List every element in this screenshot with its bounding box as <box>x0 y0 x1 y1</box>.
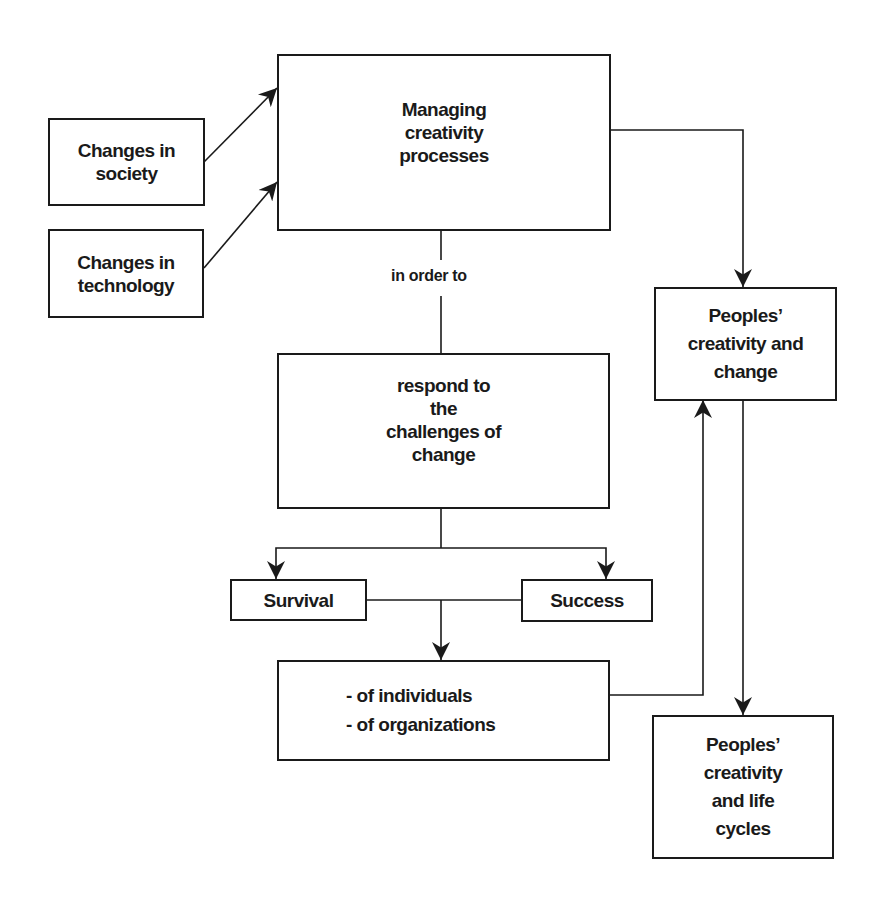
box-peoples-creativity-and-change: Peoples’ creativity and change <box>654 287 837 401</box>
connector-label-in-order-to: in order to <box>387 267 471 285</box>
box-of-individuals-organizations: - of individuals - of organizations <box>277 660 610 761</box>
arrow-to-survival <box>276 548 441 579</box>
box-respond-to-challenges: respond to the challenges of change <box>277 353 610 509</box>
box-label: Peoples’ creativity and change <box>688 302 804 386</box>
box-label: - of individuals - of organizations <box>346 681 495 739</box>
box-label: Peoples’ creativity and life cycles <box>704 731 782 843</box>
box-peoples-creativity-and-life-cycles: Peoples’ creativity and life cycles <box>652 715 834 859</box>
arrow-managing-to-peoples-change <box>610 130 743 287</box>
arrow-technology-to-managing <box>204 182 277 268</box>
box-success: Success <box>521 579 653 622</box>
box-survival: Survival <box>230 579 367 621</box>
box-changes-in-technology: Changes in technology <box>48 229 204 318</box>
box-label: respond to the challenges of change <box>386 374 501 466</box>
box-label: Managing creativity processes <box>399 98 489 167</box>
box-changes-in-society: Changes in society <box>48 118 205 206</box>
box-label: Survival <box>264 589 334 612</box>
box-label: Success <box>550 589 624 612</box>
box-label: Changes in technology <box>77 251 174 297</box>
arrow-society-to-managing <box>204 88 277 162</box>
box-managing-creativity-processes: Managing creativity processes <box>277 54 611 231</box>
creativity-change-diagram: Changes in society Changes in technology… <box>0 0 880 908</box>
box-label: Changes in society <box>78 139 175 185</box>
arrow-of-whom-to-peoples-change <box>609 400 703 695</box>
arrow-to-success <box>441 548 606 579</box>
